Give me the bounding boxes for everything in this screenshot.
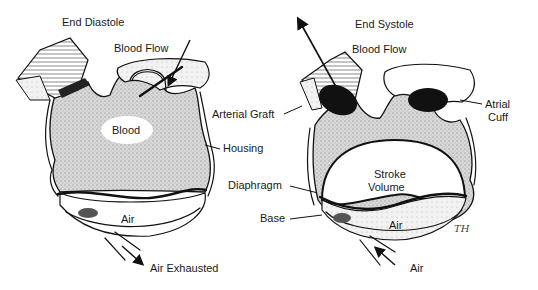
label-cuff: Cuff (488, 111, 509, 123)
label-blood-flow-left: Blood Flow (114, 42, 168, 54)
label-air-exhausted: Air Exhausted (150, 262, 218, 274)
label-air-in: Air (410, 262, 424, 274)
artist-signature: TH (454, 223, 470, 234)
label-diaphragm: Diaphragm (228, 179, 282, 191)
leader-atrial-cuff (460, 100, 482, 104)
label-blood: Blood (112, 124, 140, 136)
label-air-left: Air (121, 213, 135, 225)
leader-arterial-graft (284, 106, 302, 114)
panel-end-diastole: End Diastole Blood Blood Flow Air (16, 16, 218, 274)
leader-base (290, 215, 322, 219)
diagram-canvas: End Diastole Blood Blood Flow Air (0, 0, 538, 290)
air-port-right (333, 213, 351, 223)
label-stroke: Stroke (374, 168, 406, 180)
air-port-left (78, 208, 98, 218)
label-blood-flow-right: Blood Flow (352, 43, 406, 55)
artificial-heart-diagram: End Diastole Blood Blood Flow Air (0, 0, 538, 290)
label-arterial-graft: Arterial Graft (212, 108, 274, 120)
label-base: Base (260, 212, 285, 224)
panel-end-systole: End Systole Blood Flow Stroke Volume Air… (300, 18, 510, 274)
title-end-diastole: End Diastole (62, 16, 124, 28)
arterial-graft-right (300, 52, 362, 121)
label-atrial: Atrial (485, 98, 510, 110)
title-end-systole: End Systole (355, 18, 414, 30)
inflow-valve-closed (408, 88, 448, 112)
label-volume: Volume (368, 181, 405, 193)
air-in-arrow (378, 250, 395, 265)
label-air-right: Air (389, 219, 403, 231)
shared-labels: Arterial Graft Housing Diaphragm Base (205, 106, 322, 224)
label-housing: Housing (223, 142, 263, 154)
